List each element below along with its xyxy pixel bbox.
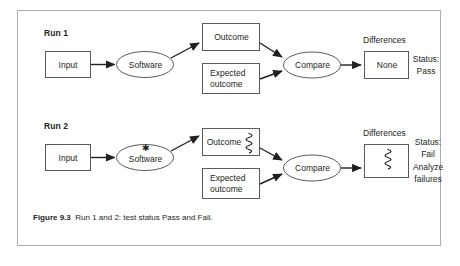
figure-container: Run 1 Input Software Outcome Expected ou… <box>0 0 460 266</box>
run2-status-block: Status: Fail Analyze failures <box>404 136 452 185</box>
run1-differences-heading: Differences <box>363 35 406 45</box>
run2-compare-label: Compare <box>284 163 341 174</box>
run1-compare-label: Compare <box>284 60 341 71</box>
run1-expected-outcome-label: Expected outcome <box>203 68 260 90</box>
run1-status-block: Status: Pass <box>404 53 448 78</box>
run1-software-label: Software <box>117 60 174 71</box>
run2-expected-outcome-label: Expected outcome <box>203 173 260 195</box>
figure-caption: Figure 9.3 Run 1 and 2: test status Pass… <box>33 213 213 222</box>
figure-caption-label: Figure 9.3 <box>33 213 71 222</box>
run1-differences-value: None <box>365 60 409 71</box>
run1-outcome-label: Outcome <box>203 32 260 43</box>
run2-software-defect-asterisk: ✱ <box>142 144 150 153</box>
run2-differences-heading: Differences <box>363 128 406 138</box>
figure-caption-text: Run 1 and 2: test status Pass and Fail. <box>75 213 212 222</box>
run1-input-label: Input <box>45 60 91 71</box>
run1-label: Run 1 <box>44 28 68 39</box>
run2-input-label: Input <box>45 153 91 164</box>
run2-software-label: Software <box>117 154 174 165</box>
run2-label: Run 2 <box>44 121 68 132</box>
run2-outcome-label: Outcome <box>199 137 249 148</box>
